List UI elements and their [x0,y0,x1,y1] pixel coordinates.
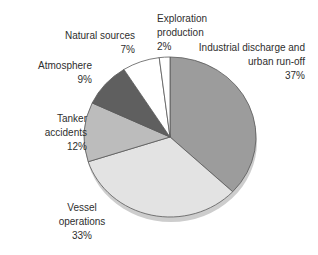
slice-label-line: Industrial discharge and [199,41,305,55]
slice-label-natural-sources: Natural sources7% [65,29,135,57]
slice-label-line: operations [42,215,122,229]
slice-label-atmosphere: Atmosphere9% [38,59,92,87]
slice-label-tanker-accidents: Tankeraccidents12% [45,112,87,154]
slice-label-line: accidents [45,126,87,140]
slice-label-line: urban run-off [199,55,305,69]
slice-label-line: Tanker [45,112,87,126]
slice-label-line: 33% [42,229,122,243]
slice-label-line: 12% [45,140,87,154]
slice-label-line: Exploration [157,12,207,26]
slice-label-line: Vessel [42,201,122,215]
slice-label-line: production [157,26,207,40]
slice-label-industrial-discharge: Industrial discharge andurban run-off37% [199,41,305,83]
slice-label-exploration-production: Explorationproduction2% [157,12,207,54]
slice-label-line: 2% [157,40,207,54]
slice-label-line: Natural sources [65,29,135,43]
slice-label-line: 9% [38,73,92,87]
pie-figure: Industrial discharge andurban run-off37%… [0,0,318,255]
slice-label-line: Atmosphere [38,59,92,73]
slice-label-line: 7% [65,43,135,57]
slice-label-vessel-operations: Vesseloperations33% [42,201,122,243]
slice-label-line: 37% [199,69,305,83]
